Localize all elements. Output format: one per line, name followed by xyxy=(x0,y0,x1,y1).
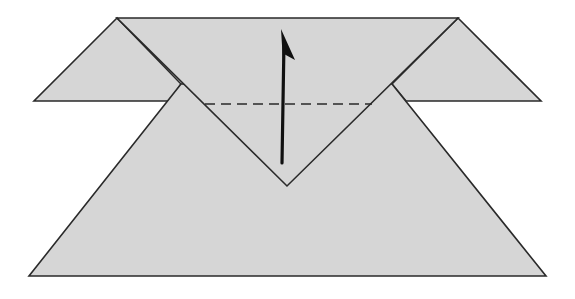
origami-diagram xyxy=(0,0,575,299)
